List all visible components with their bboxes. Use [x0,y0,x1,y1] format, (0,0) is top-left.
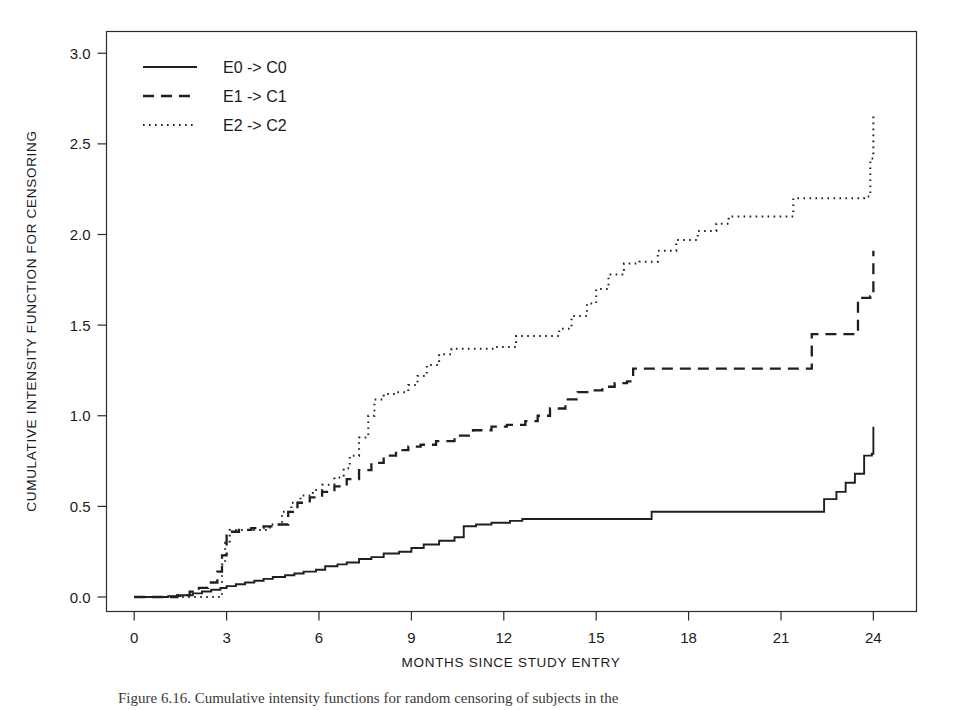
y-tick-label: 0.5 [70,498,91,515]
legend-label: E2 -> C2 [223,117,287,134]
y-axis-ticks: 0.00.51.01.52.02.53.0 [70,45,107,606]
y-tick-label: 2.5 [70,135,91,152]
x-tick-label: 12 [495,629,512,646]
x-tick-label: 6 [315,629,323,646]
x-tick-label: 3 [222,629,230,646]
y-tick-label: 1.5 [70,317,91,334]
x-axis-title: MONTHS SINCE STUDY ENTRY [402,655,621,670]
y-tick-label: 1.0 [70,407,91,424]
legend-label: E0 -> C0 [223,59,287,76]
figure-root: 0.00.51.01.52.02.53.0 03691215182124 MON… [0,0,959,710]
x-tick-label: 15 [588,629,605,646]
x-axis-ticks: 03691215182124 [130,612,882,646]
x-tick-label: 18 [680,629,697,646]
x-tick-label: 0 [130,629,138,646]
x-tick-label: 21 [773,629,790,646]
y-tick-label: 3.0 [70,45,91,62]
y-tick-label: 0.0 [70,589,91,606]
legend-label: E1 -> C1 [223,88,287,105]
x-tick-label: 24 [865,629,882,646]
cumulative-intensity-chart: 0.00.51.01.52.02.53.0 03691215182124 MON… [0,0,959,710]
x-tick-label: 9 [407,629,415,646]
y-tick-label: 2.0 [70,226,91,243]
y-axis-title: CUMULATIVE INTENSITY FUNCTION FOR CENSOR… [24,130,39,511]
figure-caption: Figure 6.16. Cumulative intensity functi… [118,690,948,707]
